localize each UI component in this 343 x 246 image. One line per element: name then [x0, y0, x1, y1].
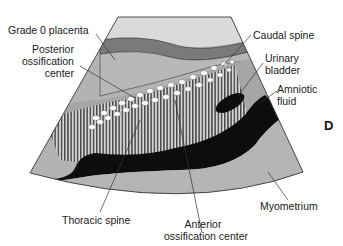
label-line: ossification center: [164, 230, 242, 242]
label-line: Amniotic: [277, 83, 317, 95]
label-thoracic-spine: Thoracic spine: [62, 214, 130, 226]
label-urinary-bladder: Urinary bladder: [265, 52, 300, 76]
label-posterior-ossification-center: Posterior ossification center: [22, 43, 74, 79]
label-amniotic-fluid: Amniotic fluid: [277, 83, 317, 107]
label-myometrium: Myometrium: [260, 200, 318, 212]
label-line: bladder: [265, 64, 300, 76]
label-anterior-ossification-center: Anterior ossification center: [164, 218, 242, 242]
label-line: center: [22, 67, 74, 79]
label-line: Posterior: [22, 43, 74, 55]
label-line: fluid: [277, 95, 317, 107]
label-grade0-placenta: Grade 0 placenta: [8, 24, 89, 36]
label-line: ossification: [22, 55, 74, 67]
panel-letter: D: [324, 118, 333, 133]
label-caudal-spine: Caudal spine: [253, 29, 314, 41]
label-line: Anterior: [164, 218, 242, 230]
label-line: Urinary: [265, 52, 300, 64]
